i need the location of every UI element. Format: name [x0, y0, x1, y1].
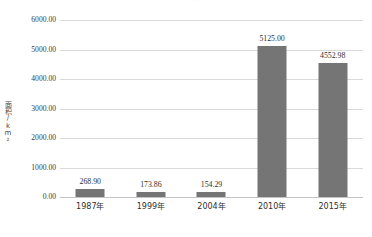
bar-value-label: 154.29: [201, 180, 222, 189]
y-axis-tick-label: 6000.00: [8, 16, 56, 24]
bar-slot: 268.90: [60, 20, 121, 197]
bar-slot: 4552.98: [302, 20, 363, 197]
y-axis-tick-label: 2000.00: [8, 134, 56, 142]
bar[interactable]: [76, 189, 105, 197]
bar-chart: 图 各期湿地总面积变化统计图 面积/km² 6000.005000.004000…: [0, 0, 372, 237]
bar[interactable]: [197, 192, 226, 197]
bar[interactable]: [318, 63, 347, 197]
bar-slot: 5125.00: [242, 20, 303, 197]
bar-slot: 154.29: [181, 20, 242, 197]
bar[interactable]: [258, 46, 287, 197]
x-axis-tick-label: 1987年: [60, 202, 121, 212]
bar-value-label: 4552.98: [320, 51, 345, 60]
chart-title: 图 各期湿地总面积变化统计图: [0, 0, 372, 3]
y-axis-tick-label: 4000.00: [8, 75, 56, 83]
gridline: [60, 197, 363, 198]
y-axis-tick-label: 3000.00: [8, 105, 56, 113]
y-axis-tick-label: 1000.00: [8, 164, 56, 172]
bar[interactable]: [136, 192, 165, 197]
bar-value-label: 173.86: [140, 180, 161, 189]
x-axis-tick-label: 1999年: [121, 202, 182, 212]
bar-slot: 173.86: [121, 20, 182, 197]
x-axis-tick-label: 2010年: [242, 202, 303, 212]
bar-value-label: 268.90: [80, 177, 101, 186]
bar-value-label: 5125.00: [259, 34, 284, 43]
y-axis-tick-label: 5000.00: [8, 46, 56, 54]
plot-area: 268.90173.86154.295125.004552.98: [60, 20, 363, 197]
y-axis-tick-label: 0.00: [8, 193, 56, 201]
x-axis-tick-label: 2015年: [302, 202, 363, 212]
x-axis-tick-label: 2004年: [181, 202, 242, 212]
